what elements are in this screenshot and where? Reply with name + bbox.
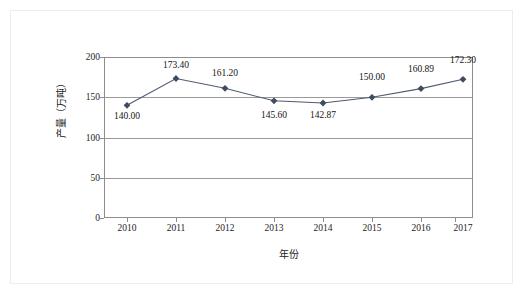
gridline-150 [105, 97, 472, 98]
x-tick-label-2016: 2016 [398, 223, 444, 234]
y-tick-label-50: 50 [74, 173, 100, 183]
data-label-2012: 161.20 [196, 68, 254, 79]
x-tick-label-2012: 2012 [202, 223, 248, 234]
x-tick-mark-2012 [225, 218, 226, 222]
y-axis-title: 产量（万吨） [53, 63, 68, 153]
x-tick-label-2011: 2011 [153, 223, 199, 234]
x-tick-mark-2013 [274, 218, 275, 222]
y-tick-label-150: 150 [74, 92, 100, 102]
x-tick-mark-2014 [323, 218, 324, 222]
gridline-50 [105, 178, 472, 179]
y-tick-label-100: 100 [74, 133, 100, 143]
x-tick-mark-2011 [176, 218, 177, 222]
figure-page: 200 150 100 50 0 2010 2011 2012 2013 201… [0, 0, 527, 301]
plot-area [104, 57, 473, 218]
x-tick-label-2010: 2010 [104, 223, 150, 234]
y-tick-label-200: 200 [74, 52, 100, 62]
y-tick-mark-0 [100, 218, 104, 219]
x-tick-mark-2017 [455, 218, 456, 222]
x-tick-label-2017: 2017 [440, 223, 486, 234]
line-chart: 200 150 100 50 0 2010 2011 2012 2013 201… [0, 0, 527, 301]
x-tick-mark-2015 [372, 218, 373, 222]
x-tick-label-2014: 2014 [300, 223, 346, 234]
y-tick-label-0: 0 [74, 213, 100, 223]
x-tick-label-2015: 2015 [349, 223, 395, 234]
data-label-2010: 140.00 [98, 111, 156, 122]
x-tick-mark-2016 [421, 218, 422, 222]
x-axis-title: 年份 [104, 246, 473, 261]
x-tick-label-2013: 2013 [251, 223, 297, 234]
x-tick-mark-2010 [127, 218, 128, 222]
gridline-100 [105, 138, 472, 139]
data-label-2017: 172.30 [434, 55, 492, 66]
data-label-2014: 142.87 [294, 110, 352, 121]
